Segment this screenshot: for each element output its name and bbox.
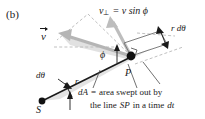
caption-line-2-prefix: the line bbox=[90, 100, 117, 110]
arc-length-label: r dθ bbox=[171, 24, 186, 33]
velocity-vector-label: v bbox=[41, 31, 46, 42]
dashed-extension-line bbox=[135, 47, 183, 64]
caption-line-1: dA=area swept out by bbox=[78, 88, 162, 97]
caption-SP-symbol: SP bbox=[120, 100, 130, 110]
figure-panel-b: (b) v v⊥= v sin ϕ r dθ ϕ dθ r P S dA=are… bbox=[0, 0, 205, 119]
angle-dtheta-label: dθ bbox=[36, 71, 45, 80]
caption-line-2-middle: in a time bbox=[133, 100, 165, 110]
point-S-label: S bbox=[36, 105, 41, 115]
caption-dA-symbol: dA bbox=[78, 87, 88, 97]
velocity-vector-symbol: v bbox=[41, 30, 46, 42]
radius-label: r bbox=[75, 77, 79, 86]
caption-line-2: the lineSPin a timedt bbox=[90, 101, 174, 110]
point-P-dot bbox=[127, 52, 136, 61]
perp-component-label: v⊥= v sin ϕ bbox=[99, 6, 148, 17]
dashed-parallelogram-top bbox=[137, 33, 175, 36]
caption-equals: = bbox=[91, 87, 96, 97]
angle-phi-label: ϕ bbox=[100, 50, 105, 60]
leader-line-right bbox=[143, 62, 160, 84]
caption-line-1-text: area swept out by bbox=[99, 87, 162, 97]
perp-equation: = v sin ϕ bbox=[112, 5, 148, 16]
point-P-label: P bbox=[125, 68, 131, 78]
panel-tag: (b) bbox=[6, 9, 19, 20]
caption-dt-symbol: dt bbox=[167, 100, 174, 110]
perp-subscript: ⊥ bbox=[103, 9, 109, 16]
